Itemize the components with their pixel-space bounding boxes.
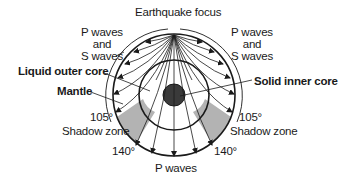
earth-cross-section	[0, 0, 342, 182]
leader-inner-core	[180, 80, 252, 96]
leader-outer-core	[104, 73, 150, 91]
label-ps-left-line3: S waves	[80, 50, 124, 62]
label-ps-right: P waves and S waves	[230, 26, 274, 62]
label-105-left: 105°	[90, 111, 113, 123]
label-mantle: Mantle	[57, 85, 92, 97]
seismic-diagram: Earthquake focus P waves and S waves P w…	[0, 0, 342, 182]
label-ps-right-line2: and	[230, 38, 274, 50]
label-105-right: 105°	[239, 111, 262, 123]
label-140-right: 140°	[214, 145, 237, 157]
label-earthquake-focus: Earthquake focus	[135, 6, 221, 18]
label-liquid-outer-core: Liquid outer core	[18, 65, 109, 77]
label-shadow-zone-right: Shadow zone	[230, 125, 298, 137]
label-140-left: 140°	[112, 145, 135, 157]
label-p-waves-bottom: P waves	[155, 162, 197, 174]
label-ps-right-line3: S waves	[230, 50, 274, 62]
label-ps-right-line1: P waves	[230, 26, 274, 38]
label-shadow-zone-left: Shadow zone	[62, 125, 130, 137]
label-ps-left: P waves and S waves	[80, 26, 124, 62]
label-ps-left-line2: and	[80, 38, 124, 50]
label-ps-left-line1: P waves	[80, 26, 124, 38]
shadow-zone-right	[193, 99, 231, 143]
wave-rays-core	[136, 35, 212, 156]
label-solid-inner-core: Solid inner core	[254, 75, 338, 87]
